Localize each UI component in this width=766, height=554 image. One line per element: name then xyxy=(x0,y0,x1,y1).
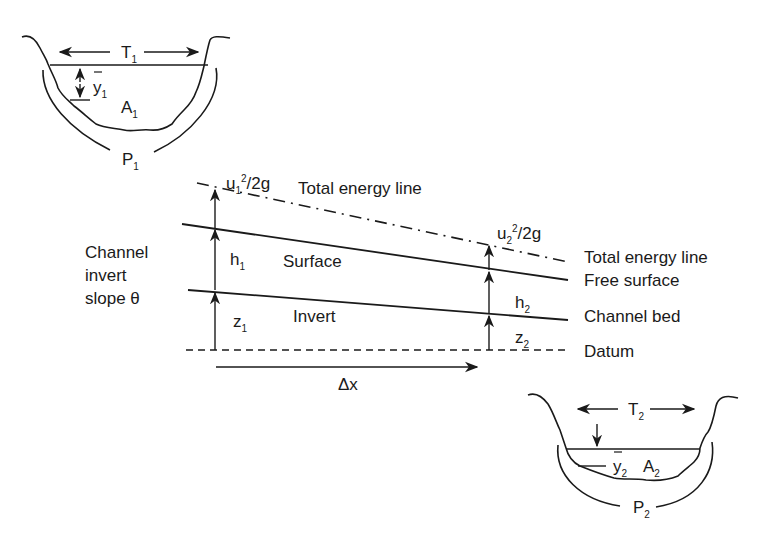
legend-channel-bed: Channel bed xyxy=(584,307,680,326)
z1-label: z1 xyxy=(233,312,248,334)
centroid-depth-label-1: y1 xyxy=(93,78,108,100)
top-width-label-1: T1 xyxy=(121,43,137,65)
legend-total-energy-line: Total energy line xyxy=(584,248,708,267)
wetted-perimeter-arc-2b xyxy=(656,442,713,507)
profile xyxy=(182,183,568,367)
delta-x-label: Δx xyxy=(338,375,358,394)
h1-label: h1 xyxy=(230,250,245,272)
wetted-perimeter-arc-2 xyxy=(558,445,620,506)
velocity-head-1-label: u12/2g xyxy=(226,173,270,196)
area-label-2: A2 xyxy=(643,457,660,479)
legend-datum: Datum xyxy=(584,342,634,361)
velocity-head-2-label: u22/2g xyxy=(497,223,541,246)
surface-label: Surface xyxy=(283,252,342,271)
slope-label-line-2: invert xyxy=(85,266,127,285)
area-label-1: A1 xyxy=(121,98,138,120)
slope-label-line-1: Channel xyxy=(85,243,148,262)
energy-line-label-top: Total energy line xyxy=(298,179,422,198)
cross-section-2: T2 y2 A2 P2 xyxy=(528,394,738,520)
profile-labels: u12/2g Total energy line h1 Surface z1 I… xyxy=(85,173,708,394)
cross-section-1: T1 y1 A1 P1 xyxy=(22,36,230,172)
perimeter-label-2: P2 xyxy=(633,498,650,520)
channel-bed-line xyxy=(188,290,568,320)
slope-label-line-3: slope θ xyxy=(85,289,140,308)
centroid-depth-label-2: y2 xyxy=(613,457,628,479)
top-width-label-2: T2 xyxy=(628,400,644,422)
wetted-perimeter-arc-1b xyxy=(154,68,217,152)
invert-label: Invert xyxy=(293,307,336,326)
channel-energy-diagram: T1 y1 A1 P1 u12/2g Total energy line h1 … xyxy=(0,0,766,554)
h2-label: h2 xyxy=(515,293,530,315)
perimeter-label-1: P1 xyxy=(122,150,139,172)
legend-free-surface: Free surface xyxy=(584,271,679,290)
z2-label: z2 xyxy=(515,328,530,350)
